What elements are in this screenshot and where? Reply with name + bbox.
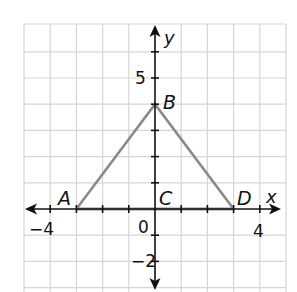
- point-label-c: C: [159, 187, 173, 209]
- tick-label-y5: 5: [135, 68, 146, 88]
- tick-label-x-neg4: −4: [29, 219, 54, 239]
- point-label-b: B: [163, 91, 176, 113]
- point-label-a: A: [56, 187, 71, 209]
- coordinate-plane: y x 5 0 −4 4 −2 A B C D: [0, 0, 297, 292]
- tick-label-y-neg2: −2: [131, 251, 156, 271]
- tick-label-x4: 4: [253, 221, 264, 241]
- x-axis-label: x: [265, 186, 277, 207]
- y-axis-label: y: [163, 27, 175, 48]
- y-axis: [151, 34, 159, 281]
- tick-label-origin: 0: [138, 217, 149, 237]
- point-label-d: D: [237, 187, 252, 209]
